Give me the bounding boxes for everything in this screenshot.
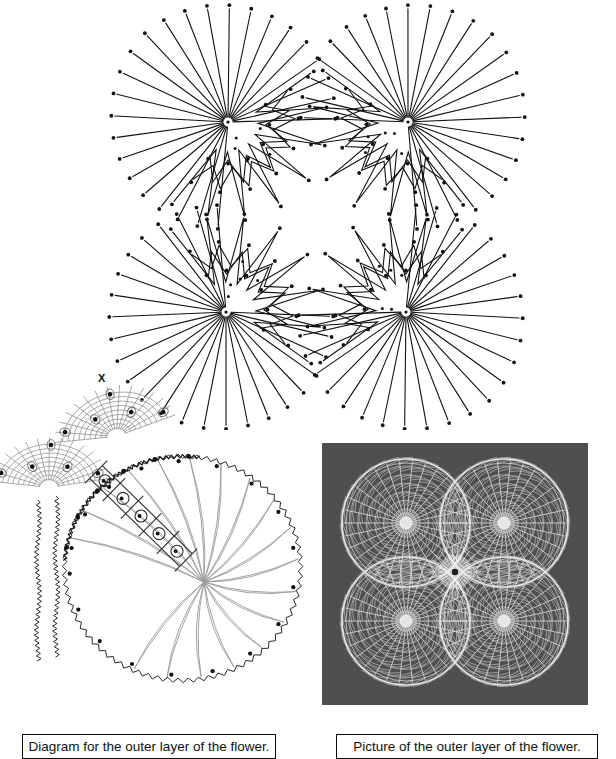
petal-fan-threads xyxy=(71,458,299,678)
pattern-ray xyxy=(413,96,519,121)
petal-fan-thread xyxy=(204,582,284,622)
pattern-pin-dot xyxy=(266,308,270,312)
x-marker-label: X xyxy=(98,372,105,384)
pattern-ray xyxy=(383,317,405,422)
petal-fan-thread xyxy=(204,528,291,583)
pattern-pin-dot xyxy=(334,314,338,318)
pattern-ray xyxy=(208,9,228,117)
pattern-pin-dot xyxy=(324,355,328,359)
braid-pin-dot xyxy=(156,532,160,536)
pattern-pin-dot xyxy=(109,114,113,118)
petal-top-pin xyxy=(95,489,100,494)
pattern-pin-dot xyxy=(381,423,385,427)
pattern-pin-dot xyxy=(264,103,268,107)
pattern-pin-dot xyxy=(156,222,160,226)
pattern-ray xyxy=(231,314,323,356)
pattern-pin-dot xyxy=(400,152,403,155)
pattern-ray xyxy=(115,313,221,338)
pattern-ray xyxy=(121,314,222,360)
pattern-pin-dot xyxy=(247,243,251,247)
pattern-ray xyxy=(410,258,501,310)
pattern-pin-dot xyxy=(366,328,370,332)
lace-petal-centre-glow xyxy=(395,610,417,632)
pattern-pin-dot xyxy=(515,71,519,75)
pattern-pin-dot xyxy=(259,288,263,292)
pattern-pin-dot xyxy=(183,9,187,13)
pattern-pin-dot xyxy=(312,70,316,74)
pattern-pin-dot xyxy=(229,283,232,286)
petal-edge-pin xyxy=(211,669,215,673)
pattern-pin-dot xyxy=(460,228,464,232)
pattern-ray xyxy=(407,317,427,425)
pattern-pin-dot xyxy=(332,96,336,100)
pattern-pin-dot xyxy=(309,143,313,147)
pattern-ray xyxy=(410,15,451,118)
pattern-pin-dot xyxy=(205,273,209,277)
pattern-pin-dot xyxy=(176,218,180,222)
pattern-pin-dot xyxy=(245,274,249,278)
pattern-pin-dot xyxy=(116,272,120,276)
pattern-pin-dot xyxy=(360,416,364,420)
petal-fan-thread xyxy=(204,478,250,582)
pattern-ray xyxy=(405,317,406,425)
pattern-pin-dot xyxy=(327,76,331,80)
pattern-pin-dot xyxy=(313,373,317,377)
pattern-pin-dot xyxy=(384,274,388,278)
pattern-pin-dot xyxy=(286,344,290,348)
pattern-pin-dot xyxy=(340,146,344,150)
pattern-pin-dot xyxy=(424,274,428,278)
centre-hole xyxy=(452,569,458,575)
pattern-ray xyxy=(409,316,486,398)
pattern-pin-dot xyxy=(175,212,179,216)
pattern-pin-dot xyxy=(390,308,393,311)
pattern-ray xyxy=(411,297,517,312)
pattern-ray xyxy=(115,295,221,311)
pattern-ray xyxy=(113,312,221,317)
petal-fan-thread xyxy=(190,458,205,582)
petal-top-pin xyxy=(75,515,80,520)
pattern-pin-dot xyxy=(514,158,518,162)
pattern-pin-dot xyxy=(307,287,311,291)
pattern-pin-dot xyxy=(273,259,277,263)
pattern-pin-dot xyxy=(205,217,209,221)
pattern-pin-dot xyxy=(321,288,325,292)
pattern-pin-dot xyxy=(413,190,417,194)
thread-tails xyxy=(34,496,60,661)
pattern-ray xyxy=(387,12,407,117)
pattern-pin-dot xyxy=(226,162,230,166)
pattern-pin-dot xyxy=(162,18,166,22)
pattern-pin-dot xyxy=(406,162,410,166)
pattern-pin-dot xyxy=(342,343,346,347)
pattern-pin-dot xyxy=(292,147,296,151)
lace-photograph-svg xyxy=(322,443,588,705)
pattern-zigzag xyxy=(174,73,323,216)
pattern-ray xyxy=(367,19,407,117)
petal-edge-pin xyxy=(83,512,87,516)
pattern-pin-dot xyxy=(278,226,282,230)
braid-pin-dot xyxy=(120,497,124,501)
petal-fan-thread xyxy=(71,538,204,582)
pattern-pin-dot xyxy=(226,120,229,123)
pattern-pin-dot xyxy=(428,4,432,8)
pattern-pin-dot xyxy=(109,337,113,341)
pattern-pin-dot xyxy=(118,70,122,74)
pattern-pin-dot xyxy=(468,412,472,416)
pattern-ray xyxy=(309,314,402,355)
pattern-pin-dot xyxy=(249,7,253,11)
pattern-ray xyxy=(411,276,511,310)
pattern-pin-dot xyxy=(289,26,293,30)
pattern-ray xyxy=(233,119,332,122)
pattern-pin-dot xyxy=(406,3,410,7)
pattern-pin-dot xyxy=(382,243,386,247)
pattern-pin-dot xyxy=(384,7,388,11)
pattern-pin-dot xyxy=(455,213,459,217)
pattern-zigzag xyxy=(311,217,460,360)
petal-fan-thread xyxy=(204,528,291,583)
pattern-pin-dot xyxy=(520,137,524,141)
pattern-pin-dot xyxy=(344,87,348,91)
petal-outline-path xyxy=(62,454,303,682)
pattern-pin-dot xyxy=(323,252,327,256)
petal-edge-pin xyxy=(248,652,252,656)
pattern-pin-dot xyxy=(461,203,465,207)
petal-top-pin xyxy=(121,469,126,474)
